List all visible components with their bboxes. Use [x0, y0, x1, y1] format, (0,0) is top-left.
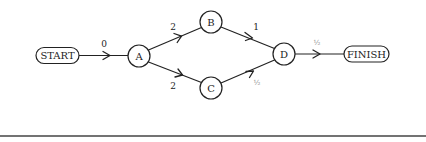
edge-b-d: 1	[221, 22, 275, 49]
node-a: A	[128, 45, 150, 67]
node-start: START	[36, 48, 79, 64]
node-label-b: B	[207, 17, 214, 28]
node-label-start: START	[40, 50, 75, 61]
edge-weight-a-c: 2	[170, 81, 176, 91]
edge-start-a: 0	[79, 39, 128, 60]
edge-a-c: 2	[149, 62, 202, 91]
node-label-a: A	[134, 51, 143, 62]
edge-weight-d-finish: ½	[314, 39, 321, 47]
edge-weight-c-d: ½	[254, 79, 261, 87]
edge-weight-a-b: 2	[170, 22, 176, 32]
node-d: D	[273, 43, 295, 65]
node-label-finish: FINISH	[347, 49, 386, 60]
node-finish: FINISH	[344, 46, 389, 62]
node-label-d: D	[280, 49, 288, 60]
node-b: B	[200, 11, 222, 33]
edge-d-finish: ½	[295, 39, 344, 58]
edge-weight-b-d: 1	[253, 22, 259, 32]
edge-c-d: ½	[221, 60, 275, 87]
activity-network-diagram: 0 2 2 1 ½ ½ START A B C	[0, 0, 426, 142]
node-c: C	[200, 77, 222, 99]
edge-weight-start-a: 0	[101, 39, 107, 49]
arrowhead-icon	[246, 71, 254, 78]
edge-a-b: 2	[149, 22, 202, 50]
node-label-c: C	[207, 83, 215, 94]
